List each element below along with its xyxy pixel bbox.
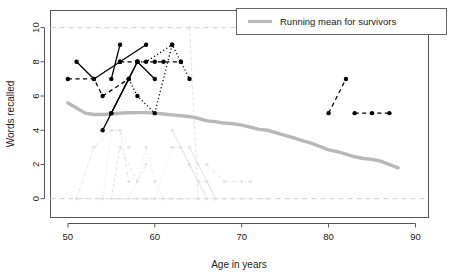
data-point (266, 197, 269, 200)
chart-plot-area: 5060708090 0246810 Age in years Words re… (0, 0, 454, 278)
data-point (352, 111, 356, 115)
data-point (153, 180, 156, 183)
series-deceased-8 (188, 146, 217, 200)
data-point (249, 180, 252, 183)
data-point (187, 77, 191, 81)
series-deceased-3 (110, 146, 148, 200)
series-deceased-9 (205, 163, 251, 183)
data-point (387, 111, 391, 115)
data-point (188, 146, 191, 149)
data-point (170, 43, 174, 47)
data-point (326, 111, 330, 115)
series-line-deceased-2 (103, 130, 129, 198)
series-line-deceased-4 (129, 147, 164, 198)
data-point (144, 60, 148, 64)
y-tick-label-2: 2 (30, 162, 41, 167)
data-point (135, 94, 139, 98)
data-point (179, 146, 182, 149)
data-point (223, 180, 226, 183)
x-tick-label-60: 60 (149, 231, 160, 242)
y-tick-label-10: 10 (30, 22, 41, 33)
series-line-deceased-5 (146, 147, 181, 198)
data-point (188, 26, 191, 29)
series-running-mean-survivors (68, 103, 398, 168)
data-point (240, 197, 243, 200)
data-point (119, 197, 122, 200)
data-point (66, 77, 70, 81)
data-point (145, 163, 148, 166)
series-deceased-7 (171, 146, 217, 200)
y-tick-label-4: 4 (30, 128, 41, 133)
data-point (188, 163, 191, 166)
data-point (214, 197, 217, 200)
chart-figure: 5060708090 0246810 Age in years Words re… (0, 0, 454, 278)
data-point (92, 146, 95, 149)
data-point (153, 111, 157, 115)
data-point (370, 111, 374, 115)
data-point (110, 129, 113, 132)
y-axis: 0246810 (30, 22, 45, 201)
series-line-deceased-9 (207, 164, 250, 181)
x-tick-label-70: 70 (236, 231, 247, 242)
data-point (101, 197, 104, 200)
data-point (249, 197, 252, 200)
data-point (118, 43, 122, 47)
data-point (100, 94, 104, 98)
x-tick-label-90: 90 (410, 231, 421, 242)
x-axis: 5060708090 (63, 224, 421, 242)
y-tick-label-0: 0 (30, 196, 41, 201)
data-point (205, 197, 208, 200)
data-point (127, 180, 130, 183)
y-axis-title: Words recalled (5, 81, 16, 148)
series-line-deceased-3 (111, 147, 146, 198)
series-survivor-6 (118, 60, 183, 64)
data-point (205, 163, 208, 166)
y-tick-label-8: 8 (30, 59, 41, 64)
running-mean-layer (68, 103, 398, 168)
data-point (109, 111, 113, 115)
data-point (144, 43, 148, 47)
data-point (136, 197, 139, 200)
data-point (145, 197, 148, 200)
data-point (179, 197, 182, 200)
series-line-survivor-9 (329, 79, 346, 113)
data-point (127, 77, 131, 81)
series-survivor-10 (352, 111, 391, 115)
series-deceased-1 (75, 129, 130, 200)
data-point (118, 60, 122, 64)
data-point (136, 180, 139, 183)
series-deceased-5 (145, 146, 183, 200)
series-line-survivor-2 (68, 79, 129, 96)
data-point (240, 180, 243, 183)
data-point (153, 60, 157, 64)
series-survivor-7 (127, 43, 192, 116)
data-point (119, 146, 122, 149)
series-line-deceased-1 (77, 130, 129, 198)
data-point (171, 129, 174, 132)
data-point (100, 128, 104, 132)
data-point (153, 197, 156, 200)
series-line-survivor-7 (129, 45, 190, 113)
series-deceased-baseline (75, 197, 269, 200)
x-axis-title: Age in years (211, 259, 267, 270)
data-point (162, 197, 165, 200)
series-survivor-9 (326, 77, 348, 116)
data-point (161, 60, 165, 64)
data-point (145, 146, 148, 149)
data-point (119, 129, 122, 132)
data-point (92, 77, 96, 81)
legend-label-running-mean: Running mean for survivors (280, 16, 396, 27)
survivor-trajectories-layer (66, 43, 392, 133)
data-point (127, 146, 130, 149)
data-point (109, 77, 113, 81)
data-point (205, 180, 208, 183)
x-tick-label-80: 80 (323, 231, 334, 242)
data-point (197, 163, 200, 166)
data-point (171, 146, 174, 149)
series-line-running-mean-survivors (68, 103, 398, 168)
data-point (153, 77, 157, 81)
x-tick-label-50: 50 (63, 231, 74, 242)
chart-legend: Running mean for survivors (237, 9, 447, 35)
data-point (135, 60, 139, 64)
data-point (231, 197, 234, 200)
